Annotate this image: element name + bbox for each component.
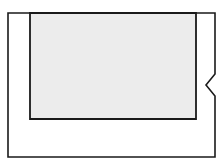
- figure-canvas: Nested rectangles line drawing with notc…: [0, 0, 223, 166]
- line-drawing-svg: [0, 0, 223, 166]
- inner-panel-shape: [30, 13, 196, 119]
